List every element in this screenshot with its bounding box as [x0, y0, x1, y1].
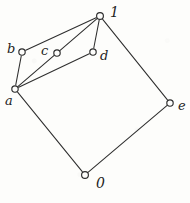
edge-0-e — [88, 106, 167, 173]
node-0[interactable] — [82, 172, 89, 179]
node-label-a: a — [5, 94, 13, 107]
node-1[interactable] — [97, 13, 104, 20]
edge-a-0 — [18, 92, 83, 171]
node-b[interactable] — [19, 49, 25, 55]
node-label-b: b — [7, 42, 15, 55]
diagram-canvas — [0, 0, 190, 203]
edge-1-e — [103, 19, 168, 99]
node-c[interactable] — [54, 50, 60, 56]
edge-1-b — [26, 18, 96, 50]
edge-a-c — [18, 56, 54, 87]
edge-a-b — [16, 56, 21, 85]
node-label-e: e — [178, 99, 186, 112]
edge-a-d — [19, 54, 90, 87]
edge-1-d — [94, 20, 99, 48]
node-e[interactable] — [167, 100, 173, 106]
node-label-1: 1 — [110, 5, 119, 19]
hasse-diagram-figure: 1bcdae0 — [0, 0, 190, 203]
edge-layer — [16, 18, 168, 172]
node-layer — [12, 13, 173, 179]
edge-1-c — [60, 19, 97, 51]
node-d[interactable] — [90, 49, 96, 55]
node-label-d: d — [100, 49, 108, 62]
node-label-c: c — [41, 44, 48, 57]
node-a[interactable] — [12, 86, 18, 92]
node-label-0: 0 — [96, 176, 105, 190]
